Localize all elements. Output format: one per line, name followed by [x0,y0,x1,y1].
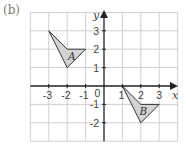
y-axis-arrow-icon [100,10,108,18]
shape-b-label: B [139,105,148,117]
y-axis-label: y [92,9,100,22]
y-tick-label: 3 [93,25,99,37]
x-tick-label: -1 [79,89,88,101]
x-tick-label: 2 [138,89,144,101]
y-tick-label: -1 [90,98,99,110]
y-tick-label: 2 [93,43,99,55]
x-axis-label: x [172,89,179,102]
x-tick-label: 1 [119,89,125,101]
shape-a-label: A [67,50,76,62]
x-tick-label: 3 [156,89,162,101]
coordinate-grid-diagram: -3 -2 -1 0 1 2 3 3 2 1 -1 -2 x y A B [0,0,186,148]
y-tick-label: 1 [93,62,99,74]
x-tick-label: -2 [61,89,70,101]
x-tick-label: -3 [43,89,52,101]
y-tick-label: -2 [90,117,99,129]
